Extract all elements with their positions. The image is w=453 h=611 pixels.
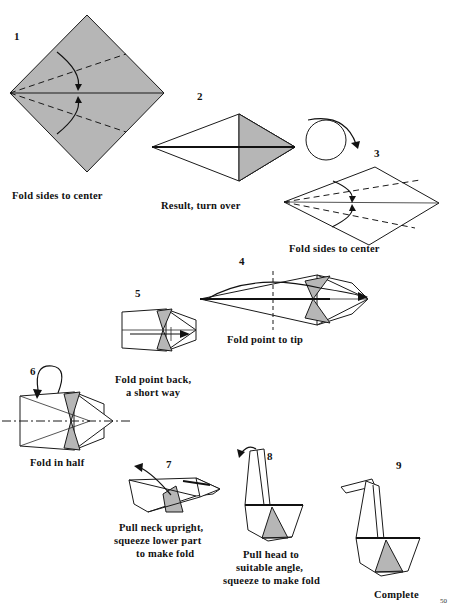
step-2-number: 2 bbox=[197, 90, 203, 102]
body7-pull-arrow-head bbox=[134, 463, 143, 472]
step-5-figure: 5 Fold point back, a short way bbox=[115, 287, 196, 398]
step-5-caption-line2: a short way bbox=[126, 387, 181, 398]
step-9-caption: Complete bbox=[374, 589, 419, 600]
step-7-caption-line1: Pull neck upright, bbox=[119, 522, 204, 533]
step-1-number: 1 bbox=[14, 30, 20, 42]
rotate-arrow-head bbox=[351, 141, 360, 149]
dart6-loop-arrow bbox=[37, 366, 62, 393]
step-7-figure: 7 Pull neck upright, squeeze lower part … bbox=[114, 458, 220, 559]
step-8-number: 8 bbox=[267, 450, 273, 462]
step-7-caption-line3: to make fold bbox=[136, 548, 194, 559]
step-7-caption-line2: squeeze lower part bbox=[114, 535, 202, 546]
origami-diagram-canvas: 1 Fold sides to center 2 Result, turn ov… bbox=[0, 0, 453, 611]
rotate-arc bbox=[308, 119, 356, 144]
step-7-number: 7 bbox=[166, 458, 172, 470]
kite3-body bbox=[284, 167, 439, 245]
step-2-figure: 2 Result, turn over bbox=[152, 90, 295, 211]
step-4-caption: Fold point to tip bbox=[227, 334, 303, 345]
instruction-sheet: 1 Fold sides to center 2 Result, turn ov… bbox=[0, 0, 453, 611]
step-8-caption-line1: Pull head to bbox=[243, 549, 299, 560]
step-2-caption: Result, turn over bbox=[161, 200, 241, 211]
step-6-figure: 6 Fold in half bbox=[2, 365, 130, 468]
step-5-number: 5 bbox=[135, 287, 141, 299]
body7-neck-flap bbox=[196, 478, 220, 497]
step-9-figure: 9 Complete bbox=[341, 459, 420, 600]
step-3-figure: 3 Fold sides to center bbox=[284, 147, 439, 254]
step-9-number: 9 bbox=[396, 459, 402, 471]
step-8-figure: 8 Pull head to suitable angle, squeeze t… bbox=[223, 447, 320, 586]
rotate-circle bbox=[306, 120, 346, 160]
step-6-number: 6 bbox=[30, 365, 36, 377]
step-3-number: 3 bbox=[374, 147, 380, 159]
step-1-caption: Fold sides to center bbox=[12, 190, 103, 201]
page-number: 50 bbox=[440, 597, 448, 605]
step-8-caption-line3: squeeze to make fold bbox=[223, 575, 320, 586]
step-4-figure: 4 Fold point to tip bbox=[200, 255, 368, 345]
step-1-figure: 1 Fold sides to center bbox=[10, 15, 164, 201]
step-4-number: 4 bbox=[239, 255, 245, 267]
turn-over-arrow-icon bbox=[306, 119, 360, 160]
step-5-caption-line1: Fold point back, bbox=[115, 374, 192, 385]
step-8-caption-line2: suitable angle, bbox=[236, 562, 303, 573]
step-6-caption: Fold in half bbox=[30, 457, 85, 468]
step-3-caption: Fold sides to center bbox=[289, 243, 380, 254]
